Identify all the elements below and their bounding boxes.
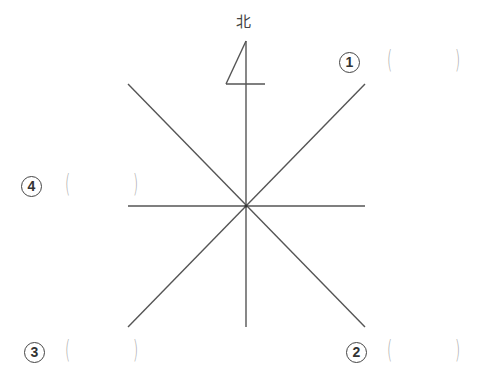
close-paren: ) [133, 170, 138, 198]
open-paren: ( [65, 170, 70, 198]
north-label: 北 [236, 10, 251, 31]
question-3: 3 ( ) [24, 342, 164, 372]
answer-blank-4[interactable] [77, 176, 135, 202]
open-paren: ( [387, 46, 392, 74]
question-number-4: 4 [21, 176, 42, 197]
close-paren: ) [133, 336, 138, 364]
question-number-3: 3 [24, 342, 45, 363]
question-number-2: 2 [346, 342, 367, 363]
close-paren: ) [455, 46, 460, 74]
question-1: 1 ( ) [339, 52, 479, 82]
question-number-1: 1 [339, 52, 360, 73]
center-point [244, 204, 247, 207]
question-2: 2 ( ) [346, 342, 486, 372]
question-4: 4 ( ) [21, 176, 161, 206]
open-paren: ( [65, 336, 70, 364]
answer-blank-1[interactable] [399, 52, 457, 78]
answer-blank-2[interactable] [399, 342, 457, 368]
answer-blank-3[interactable] [77, 342, 135, 368]
close-paren: ) [455, 336, 460, 364]
open-paren: ( [387, 336, 392, 364]
